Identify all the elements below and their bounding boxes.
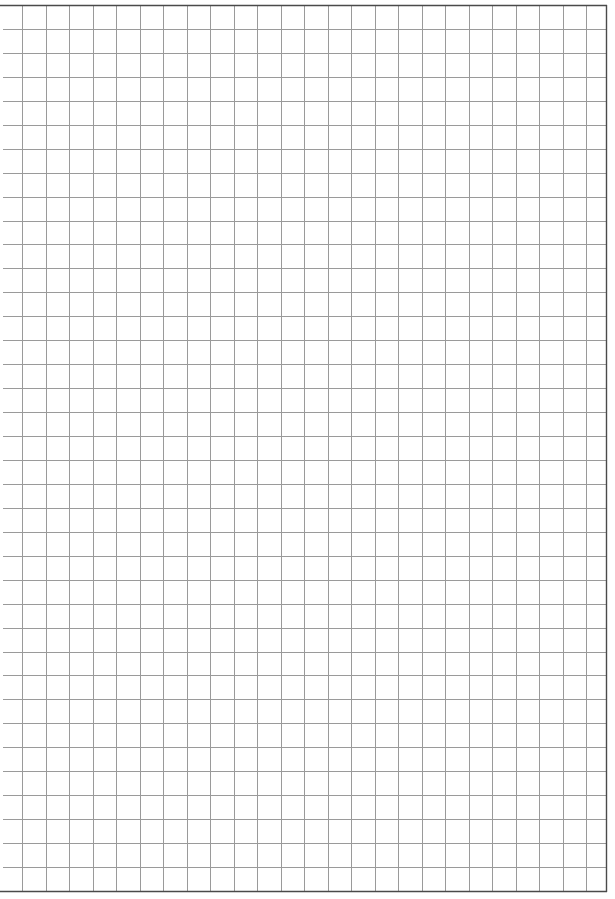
grid-border bbox=[0, 5, 607, 892]
graph-paper-sheet bbox=[0, 0, 615, 899]
grid-lines bbox=[0, 0, 615, 899]
vertical-grid-lines bbox=[23, 5, 587, 891]
